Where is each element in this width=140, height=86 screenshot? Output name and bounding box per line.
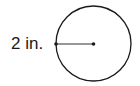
circle-figure (0, 0, 140, 86)
edge-point (54, 42, 58, 46)
center-point (92, 42, 96, 46)
